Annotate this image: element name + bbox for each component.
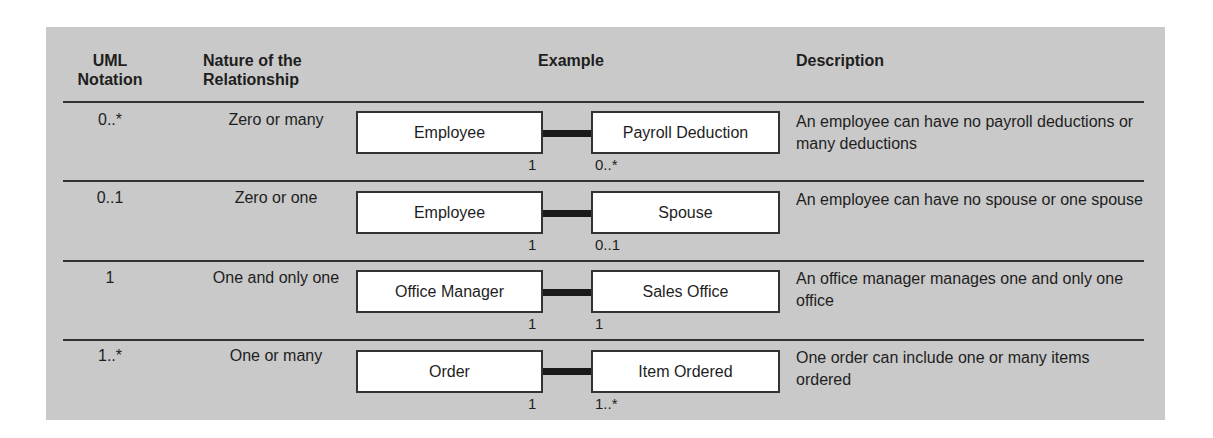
row-divider [63,339,1144,341]
row-description: One order can include one or many items … [796,347,1146,391]
multiplicity-left: 1 [528,156,536,174]
row-description: An employee can have no payroll deductio… [796,111,1146,155]
row-notation: 1..* [70,345,150,367]
header-description: Description [796,51,884,70]
header-example: Example [356,51,786,70]
row-description: An employee can have no spouse or one sp… [796,189,1146,211]
row-divider [63,260,1144,262]
multiplicity-right: 0..1 [595,236,620,254]
header-divider [63,101,1144,103]
association-line [543,289,591,296]
entity-box-right: Item Ordered [591,350,780,393]
multiplicity-left: 1 [528,315,536,333]
uml-multiplicity-table: UML Notation Nature of the Relationship … [46,27,1165,420]
row-description: An office manager manages one and only o… [796,268,1146,312]
entity-box-left: Office Manager [356,270,543,313]
row-divider [63,180,1144,182]
row-nature: One or many [206,345,346,367]
multiplicity-right: 0..* [595,156,618,174]
entity-box-right: Payroll Deduction [591,111,780,154]
multiplicity-left: 1 [528,236,536,254]
row-nature: Zero or one [206,187,346,209]
association-line [543,130,591,137]
entity-box-right: Spouse [591,191,780,234]
association-line [543,368,591,375]
row-notation: 0..1 [70,187,150,209]
multiplicity-right: 1 [595,315,603,333]
association-line [543,210,591,217]
multiplicity-right: 1..* [595,395,618,413]
row-nature: One and only one [198,267,354,289]
header-uml-notation: UML Notation [70,51,150,89]
entity-box-left: Employee [356,111,543,154]
entity-box-left: Order [356,350,543,393]
entity-box-right: Sales Office [591,270,780,313]
entity-box-left: Employee [356,191,543,234]
row-nature: Zero or many [206,109,346,131]
multiplicity-left: 1 [528,395,536,413]
row-notation: 1 [70,267,150,289]
header-nature: Nature of the Relationship [203,51,353,89]
row-notation: 0..* [70,109,150,131]
